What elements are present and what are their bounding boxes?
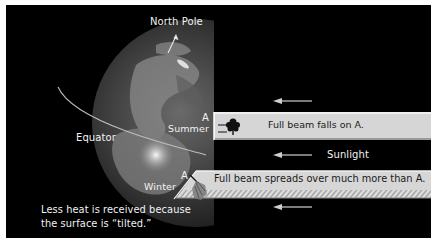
winter-label: Winter (144, 181, 176, 192)
summer-point-label: A (202, 112, 209, 123)
caption-line-1: Less heat is received because (41, 204, 191, 215)
summer-label: Summer (168, 123, 209, 134)
sunlight-label: Sunlight (327, 149, 369, 160)
north-pole-label: North Pole (150, 16, 203, 27)
summer-beam-text: Full beam falls on A. (268, 119, 364, 130)
equator-label: Equator (76, 132, 116, 143)
diagram-panel: North Pole Equator A Summer A Winter Sun… (6, 5, 431, 238)
winter-point-label: A (181, 170, 188, 181)
winter-beam-text: Full beam spreads over much more than A. (214, 173, 425, 184)
caption-line-2: the surface is “tilted.” (41, 218, 152, 229)
